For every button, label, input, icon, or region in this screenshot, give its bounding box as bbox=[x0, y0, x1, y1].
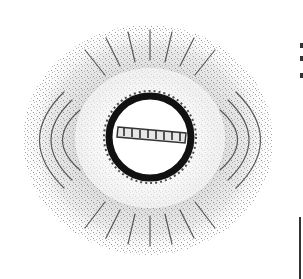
iron-filings-photo bbox=[0, 0, 303, 279]
cropped-text-fragment bbox=[300, 43, 303, 48]
cropped-text-fragment bbox=[300, 56, 303, 61]
border-line bbox=[299, 217, 301, 279]
cropped-text-fragment bbox=[300, 73, 303, 78]
